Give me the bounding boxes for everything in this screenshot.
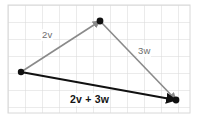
vertex-dot-apex (97, 18, 104, 25)
vector-sum-label: 2v + 3w (69, 93, 110, 106)
vertex-dot-head (173, 97, 180, 104)
vertex-dot-tail (18, 69, 24, 75)
vector-3w-label: 3w (137, 45, 151, 57)
vector-2v-label: 2v (41, 29, 53, 41)
vector-diagram-canvas (0, 0, 197, 130)
vector-addition-figure: 2v 3w 2v + 3w (0, 0, 197, 130)
